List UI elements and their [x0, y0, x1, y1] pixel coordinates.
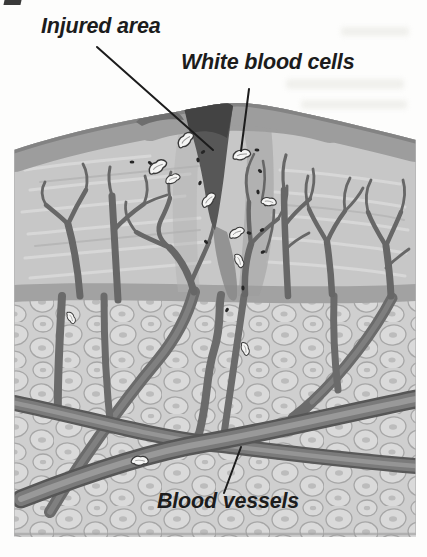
- skin-cross-section-figure: [0, 0, 427, 557]
- label-injured-area: Injured area: [41, 16, 160, 38]
- scanned-textbook-page: Injured area White blood cells Blood ves…: [0, 0, 427, 557]
- label-blood-vessels: Blood vessels: [157, 491, 299, 513]
- bacterium: [130, 160, 135, 163]
- dermis-fat-boundary: [14, 283, 416, 303]
- label-white-blood-cells: White blood cells: [181, 52, 354, 74]
